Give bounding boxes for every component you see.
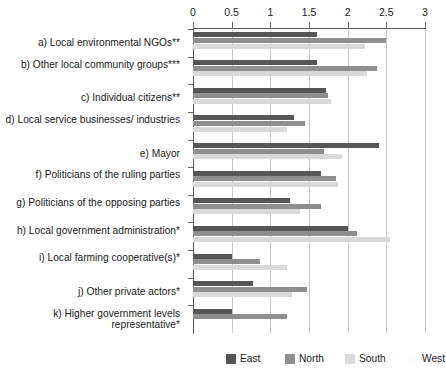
category-label: b) Other local community groups*** bbox=[0, 59, 180, 71]
bar-south bbox=[193, 237, 390, 242]
bar-north bbox=[193, 93, 328, 98]
legend-label: West bbox=[422, 353, 445, 364]
x-tick-label: 2.5 bbox=[379, 6, 394, 18]
bar-south bbox=[193, 265, 287, 270]
bar-east bbox=[193, 143, 379, 148]
bar-south bbox=[193, 209, 300, 214]
legend-label: East bbox=[240, 353, 260, 364]
bar-east bbox=[193, 281, 253, 286]
bar-north bbox=[193, 287, 307, 292]
category-label: d) Local service businesses/ industries bbox=[0, 114, 180, 126]
x-tick-label: 1 bbox=[267, 6, 273, 18]
bar-group bbox=[193, 60, 425, 82]
x-tick-label: 2 bbox=[345, 6, 351, 18]
bar-east bbox=[193, 88, 326, 93]
category-label: g) Politicians of the opposing parties bbox=[0, 197, 180, 209]
bar-east bbox=[193, 60, 317, 65]
bar-south bbox=[193, 99, 331, 104]
x-tick-0 bbox=[193, 22, 194, 29]
bar-group bbox=[193, 281, 425, 303]
x-tick-label: 1.5 bbox=[302, 6, 317, 18]
bar-chart: 00.511.522.53 a) Local environmental NGO… bbox=[0, 0, 446, 379]
x-tick-1 bbox=[270, 22, 271, 29]
bar-east bbox=[193, 254, 232, 259]
legend-swatch-south bbox=[345, 354, 355, 364]
legend-swatch-east bbox=[226, 354, 236, 364]
bar-east bbox=[193, 115, 294, 120]
legend-label: South bbox=[359, 353, 386, 364]
bar-south bbox=[193, 71, 367, 76]
bar-group bbox=[193, 309, 425, 331]
bar-east bbox=[193, 171, 321, 176]
category-labels: a) Local environmental NGOs**b) Other lo… bbox=[0, 29, 188, 333]
bar-group bbox=[193, 115, 425, 137]
x-tick-label: 0.5 bbox=[224, 6, 239, 18]
bar-group bbox=[193, 171, 425, 193]
bar-south bbox=[193, 154, 342, 159]
bar-group bbox=[193, 32, 425, 54]
bar-group bbox=[193, 226, 425, 248]
legend-label: North bbox=[299, 353, 324, 364]
bar-north bbox=[193, 38, 386, 43]
chart-legend: EastNorthSouthWest bbox=[0, 352, 446, 370]
legend-swatch-west bbox=[408, 354, 418, 364]
x-tick-1.5 bbox=[309, 22, 310, 29]
bar-group bbox=[193, 254, 425, 276]
x-tick-3 bbox=[425, 22, 426, 29]
category-label: i) Local farming cooperative(s)* bbox=[0, 252, 180, 264]
bar-south bbox=[193, 292, 292, 297]
bar-north bbox=[193, 149, 324, 154]
bar-east bbox=[193, 32, 317, 37]
bar-north bbox=[193, 259, 260, 264]
bar-east bbox=[193, 309, 232, 314]
x-tick-label: 0 bbox=[190, 6, 196, 18]
bar-group bbox=[193, 143, 425, 165]
bar-east bbox=[193, 198, 290, 203]
x-tick-2 bbox=[348, 22, 349, 29]
bar-north bbox=[193, 176, 336, 181]
bar-group bbox=[193, 88, 425, 110]
bar-north bbox=[193, 231, 357, 236]
bar-north bbox=[193, 204, 321, 209]
bar-south bbox=[193, 127, 287, 132]
bar-east bbox=[193, 226, 348, 231]
category-label: a) Local environmental NGOs** bbox=[0, 37, 180, 49]
bars-area bbox=[193, 29, 425, 333]
x-tick-label: 3 bbox=[422, 6, 428, 18]
x-tick-0.5 bbox=[232, 22, 233, 29]
category-label: k) Higher government levels representati… bbox=[0, 308, 180, 331]
category-label: c) Individual citizens** bbox=[0, 92, 180, 104]
legend-swatch-north bbox=[285, 354, 295, 364]
category-label: h) Local government administration* bbox=[0, 225, 180, 237]
bar-south bbox=[193, 182, 338, 187]
category-label: f) Politicians of the ruling parties bbox=[0, 169, 180, 181]
bar-north bbox=[193, 66, 377, 71]
gridline bbox=[425, 29, 426, 333]
category-label: j) Other private actors* bbox=[0, 286, 180, 298]
bar-south bbox=[193, 44, 365, 49]
bar-north bbox=[193, 121, 305, 126]
x-tick-2.5 bbox=[386, 22, 387, 29]
bar-group bbox=[193, 198, 425, 220]
bar-north bbox=[193, 314, 287, 319]
category-label: e) Mayor bbox=[0, 148, 180, 160]
